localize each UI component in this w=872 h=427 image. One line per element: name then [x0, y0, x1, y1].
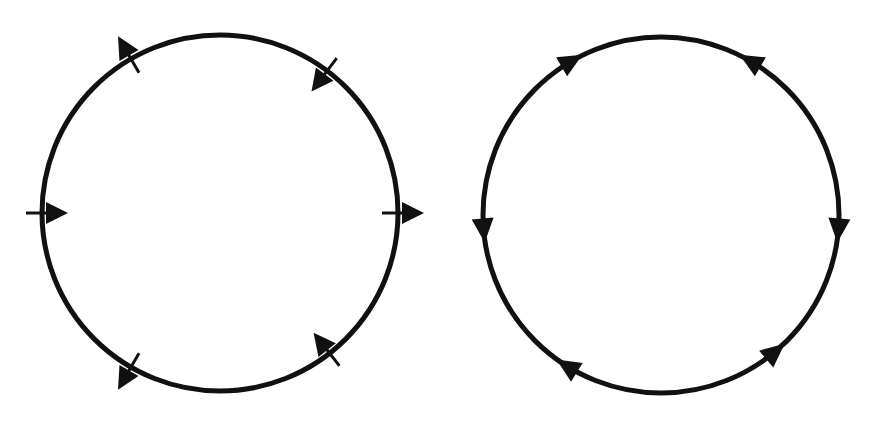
- circle-outline: [483, 37, 839, 393]
- diagram-canvas: [0, 0, 872, 427]
- arrow-icon: [828, 218, 850, 243]
- right-circle-tangent-arrows: [472, 37, 851, 393]
- circle-arrow-diagram: [0, 0, 872, 427]
- arrow-icon: [26, 202, 68, 224]
- arrow-icon: [472, 218, 494, 243]
- arrow-icon: [382, 202, 424, 224]
- circle-outline: [42, 35, 398, 391]
- left-circle-normal-arrows: [26, 35, 424, 391]
